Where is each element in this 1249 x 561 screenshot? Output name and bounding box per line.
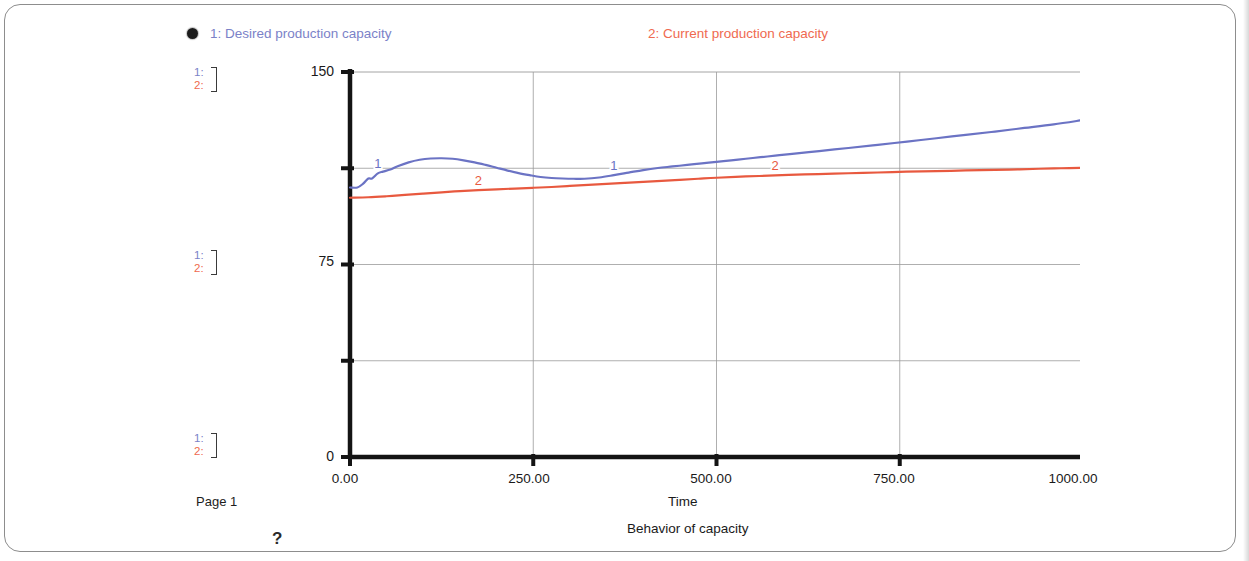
plot-area: 11112222	[340, 66, 1080, 466]
x-axis-title: Time	[668, 494, 698, 509]
scale-stack-top: 1: 2:	[194, 66, 240, 91]
scale-stack-middle: 1: 2:	[194, 249, 240, 274]
help-glyph: ?	[272, 529, 282, 549]
y-tick-label-75: 75	[292, 253, 334, 269]
scale-bracket-icon	[211, 250, 217, 275]
x-tick-label-0: 0.00	[300, 471, 390, 486]
legend-item-current-production-capacity: 2: Current production capacity	[648, 24, 828, 44]
x-tick-label-1000: 1000.00	[1028, 471, 1118, 486]
page-edge-shadow	[1243, 0, 1249, 561]
scale-label-series-1: 1:	[194, 249, 240, 262]
axis-lines	[348, 69, 1080, 459]
y-axis-tick-labels: 150 75 0	[288, 0, 334, 500]
x-tick-label-750: 750.00	[849, 471, 939, 486]
scale-label-series-2: 2:	[194, 79, 240, 92]
series-line-2	[350, 168, 1080, 198]
data-series	[350, 120, 1080, 198]
scale-stack-bottom: 1: 2:	[194, 432, 240, 457]
page-number-label: Page 1	[196, 494, 237, 509]
x-tick-label-500: 500.00	[666, 471, 756, 486]
line-chart-svg: 11112222	[340, 66, 1080, 466]
series-inline-label-2: 2	[475, 173, 482, 188]
scale-bracket-icon	[211, 67, 217, 92]
series-inline-label-1: 1	[610, 158, 617, 173]
scale-label-series-2: 2:	[194, 445, 240, 458]
axis-ticks	[341, 72, 1080, 466]
x-tick-label-250: 250.00	[484, 471, 574, 486]
filled-circle-marker-icon	[187, 28, 198, 39]
scale-label-series-1: 1:	[194, 66, 240, 79]
series-inline-label-1: 1	[374, 156, 381, 171]
chart-page: 1: Desired production capacity 2: Curren…	[0, 0, 1249, 561]
scale-label-series-1: 1:	[194, 432, 240, 445]
chart-caption: Behavior of capacity	[627, 521, 749, 536]
y-tick-label-0: 0	[292, 448, 334, 464]
gridlines	[350, 72, 1080, 457]
scale-label-series-2: 2:	[194, 262, 240, 275]
series-inline-label-2: 2	[772, 158, 779, 173]
y-tick-label-150: 150	[292, 63, 334, 79]
scale-bracket-icon	[211, 433, 217, 458]
